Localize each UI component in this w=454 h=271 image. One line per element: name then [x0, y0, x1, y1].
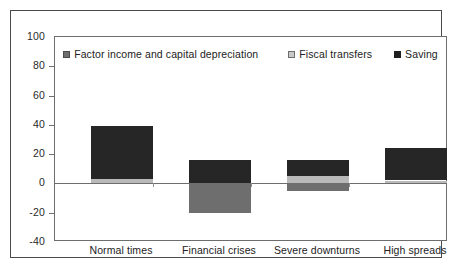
- y-tick-mark: [49, 66, 55, 67]
- bar-segment-saving: [287, 160, 349, 176]
- bar-segment-factor-income: [91, 179, 153, 183]
- bar-segment-saving: [189, 160, 251, 183]
- figure-border: 100 80 60 40 20 0 -20: [10, 10, 442, 258]
- legend-label: Saving: [405, 48, 438, 60]
- y-tick-mark: [49, 125, 55, 126]
- x-axis-labels: Normal times Financial crises Severe dow…: [54, 244, 447, 262]
- y-tick-label: -20: [29, 206, 45, 218]
- y-tick-label: 20: [33, 147, 45, 159]
- y-tick-mark: [49, 213, 55, 214]
- legend-swatch-icon: [63, 51, 70, 58]
- plot-area: 100 80 60 40 20 0 -20: [54, 36, 447, 241]
- y-tick-label: 0: [39, 176, 45, 188]
- chart-figure: 100 80 60 40 20 0 -20: [0, 0, 454, 271]
- bar-segment-saving: [91, 126, 153, 179]
- y-tick-label: 60: [33, 89, 45, 101]
- y-tick-label: -40: [29, 235, 45, 247]
- chart-legend: Factor income and capital depreciation F…: [55, 47, 446, 61]
- legend-swatch-icon: [288, 51, 295, 58]
- y-tick-label: 80: [33, 59, 45, 71]
- y-tick-mark: [49, 154, 55, 155]
- bar-segment-fiscal-transfers: [287, 183, 349, 190]
- x-tick-mark: [349, 183, 350, 187]
- y-tick-mark: [49, 96, 55, 97]
- bar-segment-saving: [385, 148, 447, 180]
- legend-label: Factor income and capital depreciation: [74, 48, 258, 60]
- legend-entry-fiscal-transfers: Fiscal transfers: [288, 48, 372, 60]
- x-tick-mark: [153, 183, 154, 187]
- legend-swatch-icon: [394, 51, 401, 58]
- y-tick-label: 40: [33, 118, 45, 130]
- bar-segment-factor-income: [385, 181, 447, 184]
- bar-segment-factor-income: [287, 176, 349, 183]
- legend-entry-factor-income: Factor income and capital depreciation: [63, 48, 258, 60]
- x-label-high-spreads: High spreads: [355, 244, 454, 256]
- x-tick-mark: [251, 183, 252, 187]
- bar-segment-fiscal-transfers: [189, 183, 251, 212]
- y-tick-label: 100: [27, 30, 45, 42]
- legend-entry-saving: Saving: [394, 48, 438, 60]
- legend-label: Fiscal transfers: [299, 48, 372, 60]
